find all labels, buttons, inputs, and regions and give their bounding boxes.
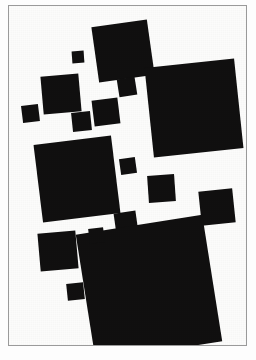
square-center-dot xyxy=(119,157,137,175)
square-upper-center xyxy=(117,77,138,98)
square-top-tiny xyxy=(72,51,85,64)
square-mid-right xyxy=(147,174,176,203)
artwork-canvas xyxy=(9,6,246,345)
square-right-largest xyxy=(145,59,244,158)
square-center-mid xyxy=(92,98,121,127)
square-bottom-left-tiny xyxy=(66,282,85,301)
square-upper-left-mid xyxy=(40,73,81,114)
square-right-lower xyxy=(198,188,235,225)
artwork-frame xyxy=(8,5,247,346)
artwork-plate xyxy=(0,0,256,360)
square-lower-tiny xyxy=(88,227,105,244)
square-left-large xyxy=(34,136,121,223)
square-center-small xyxy=(71,111,92,132)
square-far-left-small xyxy=(21,104,40,123)
square-left-lower-mid xyxy=(37,230,78,271)
